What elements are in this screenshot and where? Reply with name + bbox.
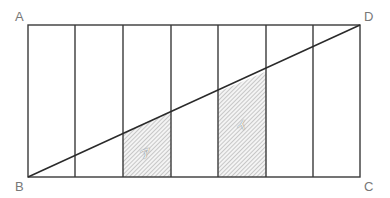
geometry-figure: [0, 0, 390, 198]
diagonal-bd: [28, 25, 360, 177]
vertex-label-a: A: [15, 10, 24, 23]
vertex-label-d: D: [364, 10, 373, 23]
shaded-region-a: [123, 112, 171, 177]
vertex-label-b: B: [15, 180, 24, 193]
vertex-label-c: C: [364, 180, 373, 193]
